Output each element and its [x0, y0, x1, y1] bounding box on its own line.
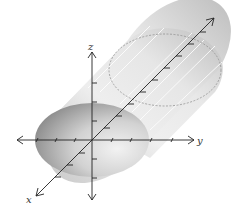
cylinder-diagram: y z x	[0, 0, 235, 215]
y-axis-label: y	[196, 135, 203, 146]
x-axis-label: x	[26, 194, 32, 205]
z-axis-label: z	[87, 41, 94, 52]
